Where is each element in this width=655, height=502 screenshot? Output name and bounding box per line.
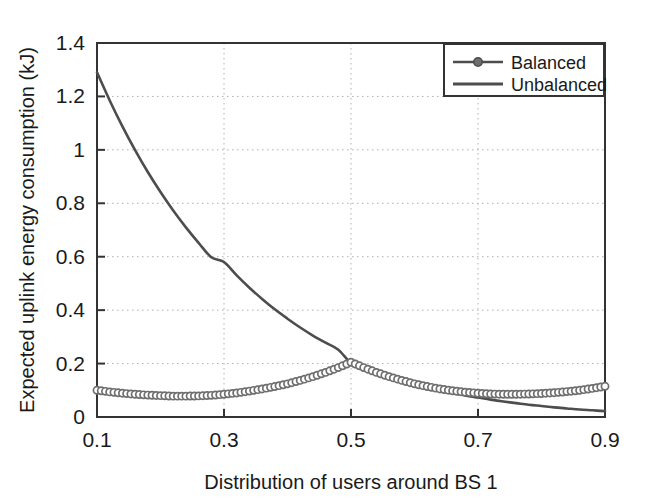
y-tick-label: 1.2 <box>56 84 85 107</box>
y-tick-label: 0.4 <box>56 298 86 321</box>
y-tick-label: 0.6 <box>56 245 85 268</box>
chart-page: 00.20.40.60.811.21.4 0.10.30.50.70.9 Dis… <box>0 0 655 502</box>
x-tick-label: 0.1 <box>82 428 111 451</box>
x-tick-label: 0.3 <box>209 428 238 451</box>
x-tick-label: 0.7 <box>463 428 492 451</box>
y-tick-label: 0 <box>73 405 85 428</box>
y-tick-label: 1.4 <box>56 31 86 54</box>
legend[interactable]: Balanced Unbalanced <box>444 44 607 96</box>
x-tick-label: 0.5 <box>336 428 365 451</box>
x-axis-title: Distribution of users around BS 1 <box>204 471 498 493</box>
y-tick-label: 0.8 <box>56 191 85 214</box>
legend-label-balanced: Balanced <box>511 53 586 73</box>
x-tick-label: 0.9 <box>590 428 619 451</box>
y-tick-label: 1 <box>73 138 85 161</box>
y-tick-label: 0.2 <box>56 352 85 375</box>
circle-marker-icon <box>474 58 482 66</box>
data-point-marker <box>601 383 608 390</box>
y-axis-title: Expected uplink energy consumption (kJ) <box>16 47 38 413</box>
chart-figure: 00.20.40.60.811.21.4 0.10.30.50.70.9 Dis… <box>0 0 655 502</box>
legend-label-unbalanced: Unbalanced <box>511 75 607 95</box>
